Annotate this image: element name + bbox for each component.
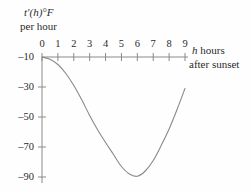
derivative-temperature-graph: t′(h)°F per hour h hours after sunset 01… <box>0 0 251 193</box>
axes-group <box>42 57 188 183</box>
plot-area <box>0 0 251 193</box>
derivative-curve <box>42 57 185 176</box>
